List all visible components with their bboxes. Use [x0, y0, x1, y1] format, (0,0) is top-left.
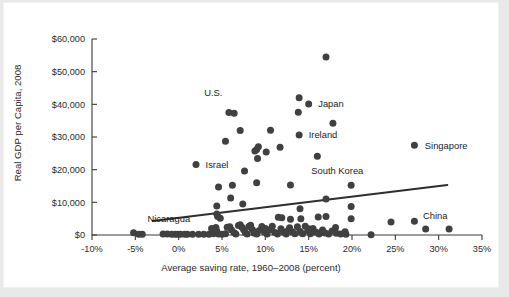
- data-point: [195, 231, 202, 238]
- y-tick-label: $0: [75, 230, 85, 240]
- data-point: [193, 161, 200, 168]
- annotation-label-singapore: Singapore: [425, 140, 468, 151]
- data-point: [222, 138, 229, 145]
- data-point: [217, 215, 224, 222]
- annotation-label-nicaragua: Nicaragua: [147, 213, 191, 224]
- x-tick-label: 30%: [429, 244, 447, 254]
- y-tick-label: $10,000: [52, 198, 85, 208]
- data-point: [297, 215, 304, 222]
- annotation-label-ireland: Ireland: [309, 129, 338, 140]
- annotation-label-south-korea: South Korea: [311, 165, 364, 176]
- x-tick-label: 25%: [386, 244, 404, 254]
- data-point: [254, 155, 261, 162]
- y-tick-label: $20,000: [52, 165, 85, 175]
- x-tick-label: 20%: [343, 244, 361, 254]
- data-point: [422, 226, 429, 233]
- data-point: [239, 200, 246, 207]
- figure-container: $0$10,000$20,000$30,000$40,000$50,000$60…: [0, 0, 509, 297]
- annotation-label-u-s: U.S.: [204, 87, 222, 98]
- x-tick-label: 35%: [473, 244, 491, 254]
- data-points-group: [130, 53, 452, 238]
- data-point: [388, 218, 395, 225]
- data-point: [174, 231, 181, 238]
- annotation-label-israel: Israel: [206, 159, 229, 170]
- data-point: [278, 214, 285, 221]
- data-point: [139, 231, 146, 238]
- data-point: [296, 94, 303, 101]
- data-point: [368, 231, 375, 238]
- scatter-chart: $0$10,000$20,000$30,000$40,000$50,000$60…: [4, 3, 498, 287]
- data-point: [251, 148, 258, 155]
- data-point: [263, 149, 270, 156]
- data-point: [323, 196, 330, 203]
- data-point: [342, 231, 349, 238]
- data-point: [213, 202, 220, 209]
- y-tick-label: $50,000: [52, 67, 85, 77]
- data-point: [305, 101, 312, 108]
- data-point: [287, 216, 294, 223]
- axis-lines: [92, 39, 482, 235]
- data-point: [297, 205, 304, 212]
- y-tick-label: $60,000: [52, 34, 85, 44]
- y-axis-title: Real GDP per Capita, 2008: [12, 65, 23, 182]
- data-point: [208, 225, 215, 232]
- data-point: [314, 153, 321, 160]
- data-point: [267, 127, 274, 134]
- data-point: [317, 229, 324, 236]
- data-point: [348, 182, 355, 189]
- data-point: [411, 142, 418, 149]
- data-point: [229, 182, 236, 189]
- y-tick-label: $40,000: [52, 100, 85, 110]
- data-point: [277, 144, 284, 151]
- x-tick-label: 10%: [256, 244, 274, 254]
- data-point: [305, 225, 312, 232]
- data-point: [222, 230, 229, 237]
- data-point: [296, 132, 303, 139]
- data-point: [295, 109, 302, 116]
- data-point: [181, 231, 188, 238]
- x-tick-label: -10%: [81, 244, 102, 254]
- data-point: [237, 127, 244, 134]
- data-point: [315, 214, 322, 221]
- y-tick-label: $30,000: [52, 132, 85, 142]
- x-tick-label: 5%: [215, 244, 228, 254]
- x-tick-label: -5%: [127, 244, 143, 254]
- data-point: [323, 53, 330, 60]
- data-point: [348, 215, 355, 222]
- annotation-label-japan: Japan: [318, 98, 344, 109]
- data-point: [215, 183, 222, 190]
- data-point: [446, 226, 453, 233]
- data-point: [329, 120, 336, 127]
- x-tick-label: 15%: [299, 244, 317, 254]
- data-point: [241, 167, 248, 174]
- x-axis-title: Average saving rate, 1960–2008 (percent): [161, 262, 341, 273]
- data-point: [411, 218, 418, 225]
- data-point: [287, 182, 294, 189]
- data-point: [189, 231, 196, 238]
- annotation-label-china: China: [423, 210, 448, 221]
- data-point: [227, 195, 234, 202]
- data-point: [232, 231, 239, 238]
- data-point: [253, 179, 260, 186]
- data-point: [284, 227, 291, 234]
- data-point: [323, 213, 330, 220]
- data-point: [348, 203, 355, 210]
- data-point: [231, 110, 238, 117]
- data-point: [262, 225, 269, 232]
- chart-plate: $0$10,000$20,000$30,000$40,000$50,000$60…: [4, 3, 498, 287]
- x-tick-label: 0%: [172, 244, 185, 254]
- data-point: [269, 223, 276, 230]
- data-point: [252, 229, 259, 236]
